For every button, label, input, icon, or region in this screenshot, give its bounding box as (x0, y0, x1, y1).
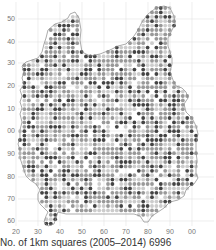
y-tick-label: 00 (1, 127, 15, 135)
x-tick-label: 60 (97, 228, 111, 236)
x-tick-label: 90 (163, 228, 177, 236)
x-tick-label: 20 (9, 228, 23, 236)
y-tick-label: 50 (1, 15, 15, 23)
y-tick-label: 90 (1, 150, 15, 158)
map-caption: No. of 1km squares (2005–2014) 6996 (0, 238, 171, 248)
x-tick-label: 70 (119, 228, 133, 236)
record-dots (18, 6, 198, 225)
x-tick-label: 00 (185, 228, 199, 236)
x-tick-label: 50 (75, 228, 89, 236)
y-tick-label: 10 (1, 105, 15, 113)
y-tick-label: 30 (1, 59, 15, 67)
x-tick-label: 30 (31, 228, 45, 236)
x-tick-label: 80 (141, 228, 155, 236)
y-tick-label: 60 (1, 217, 15, 225)
y-tick-label: 40 (1, 38, 15, 46)
y-tick-label: 70 (1, 195, 15, 203)
y-tick-label: 20 (1, 82, 15, 90)
y-tick-label: 80 (1, 173, 15, 181)
x-tick-label: 40 (53, 228, 67, 236)
